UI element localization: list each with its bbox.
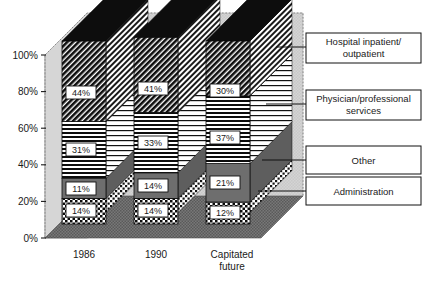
bar-1990-hospital[interactable]	[134, 37, 178, 112]
value-label-text: 14%	[144, 181, 162, 191]
value-label-text: 21%	[216, 178, 234, 188]
bar-capitated-physician-value: 37%	[210, 131, 240, 144]
legend-label-line1: Other	[352, 155, 376, 166]
value-label-text: 14%	[72, 206, 90, 216]
x-axis-labels: 1986 1990 Capitated future	[73, 249, 254, 272]
y-axis: 100% 80% 60% 40% 20% 0%	[12, 50, 46, 244]
x-tick-label-1986: 1986	[73, 249, 96, 260]
value-label-text: 44%	[72, 88, 90, 98]
value-label-text: 33%	[144, 138, 162, 148]
bar-1986-physician-value: 31%	[66, 143, 96, 156]
value-label-text: 11%	[72, 184, 89, 194]
bar-1990-physician-value: 33%	[138, 136, 168, 149]
bar-1990-other-value: 14%	[138, 179, 168, 192]
bar-1986-hospital[interactable]	[62, 41, 106, 122]
bar-capitated-administration-value: 12%	[210, 206, 240, 219]
y-tick-label-20: 20%	[18, 196, 38, 207]
value-label-text: 30%	[216, 86, 234, 96]
legend-item-administration[interactable]: Administration	[306, 177, 421, 205]
bar-1990-administration-value: 14%	[138, 204, 168, 217]
bar-1986-other-value: 11%	[66, 182, 96, 195]
x-tick-label-capitated-line1: Capitated	[211, 249, 254, 260]
legend-label-line1: Administration	[333, 186, 393, 197]
x-tick-label-capitated-line2: future	[219, 261, 245, 272]
y-tick-label-80: 80%	[18, 86, 38, 97]
bar-1986-hospital-value: 44%	[66, 86, 96, 99]
value-label-text: 31%	[72, 145, 90, 155]
legend-label-line2: outpatient	[343, 48, 385, 59]
legend-item-physician-professional-services[interactable]: Physician/professional services	[306, 90, 421, 120]
bar-capitated-physician[interactable]	[206, 96, 250, 164]
legend-label-line2: services	[346, 105, 381, 116]
stacked-column-chart: 100% 80% 60% 40% 20% 0% 44% 31% 11%	[0, 0, 424, 286]
x-tick-label-1990: 1990	[145, 249, 168, 260]
bar-1986-administration-value: 14%	[66, 204, 96, 217]
y-tick-label-100: 100%	[12, 50, 38, 61]
legend-item-hospital-inpatient-outpatient[interactable]: Hospital inpatient/ outpatient	[306, 33, 421, 63]
bar-1990-hospital-value: 41%	[138, 82, 168, 95]
y-tick-label-60: 60%	[18, 123, 38, 134]
bar-capitated-hospital-value: 30%	[210, 84, 240, 97]
value-label-text: 37%	[216, 133, 234, 143]
bar-capitated-other-value: 21%	[210, 176, 240, 189]
legend-label-line1: Physician/professional	[316, 93, 411, 104]
value-label-text: 12%	[216, 208, 234, 218]
legend-label-line1: Hospital inpatient/	[326, 36, 402, 47]
legend-item-other[interactable]: Other	[306, 146, 421, 174]
chart-container: 100% 80% 60% 40% 20% 0% 44% 31% 11%	[0, 0, 424, 286]
y-tick-label-0: 0%	[24, 233, 39, 244]
value-label-text: 41%	[144, 84, 162, 94]
value-label-text: 14%	[144, 206, 162, 216]
y-tick-label-40: 40%	[18, 159, 38, 170]
